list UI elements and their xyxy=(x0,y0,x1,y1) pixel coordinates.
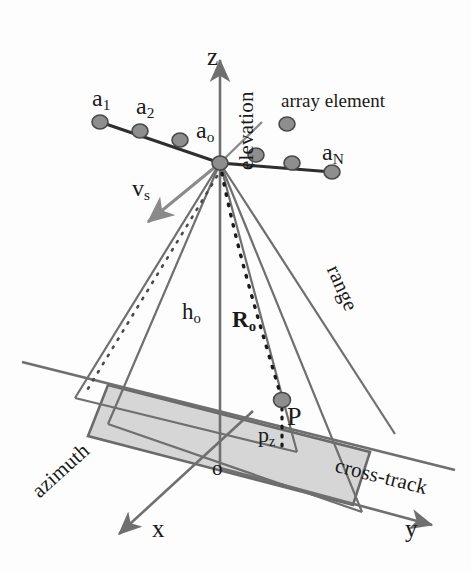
target-height-sub: z xyxy=(269,433,275,449)
altitude-label: ho xyxy=(182,300,201,326)
array-element-label-first: a1 xyxy=(92,86,110,113)
array-element-label-center: ao xyxy=(196,118,214,145)
array-element-label-second: a2 xyxy=(136,94,154,121)
legend-array-element-dot xyxy=(279,117,295,131)
array-first-sub: 1 xyxy=(103,96,111,113)
slant-range-letter: R xyxy=(232,307,249,332)
axis-z-letter: z xyxy=(207,44,218,69)
axis-x-letter: x xyxy=(152,516,165,541)
velocity-vector xyxy=(148,163,220,222)
array-last-sub: N xyxy=(333,150,344,167)
slant-range-label: Ro xyxy=(232,308,256,334)
array-center-letter: a xyxy=(196,117,207,143)
velocity-sub: s xyxy=(144,186,150,203)
target-height-letter: p xyxy=(258,422,269,447)
legend-array-element-label: array element xyxy=(281,91,385,110)
velocity-letter: v xyxy=(132,175,144,201)
target-point-label: P xyxy=(287,404,301,430)
array-center-sub: o xyxy=(207,128,215,145)
altitude-letter: h xyxy=(182,299,194,324)
velocity-label: vs xyxy=(132,176,150,203)
target-height-label: pz xyxy=(258,424,275,448)
array-last-letter: a xyxy=(322,139,333,165)
altitude-sub: o xyxy=(194,310,201,326)
axis-z-word-elevation: elevation xyxy=(236,91,257,170)
near-edge-dotted-line xyxy=(86,168,222,392)
array-first-letter: a xyxy=(92,85,103,111)
origin-label: o xyxy=(212,458,223,479)
slant-range-sub: o xyxy=(249,318,256,334)
array-second-sub: 2 xyxy=(147,104,155,121)
array-element-label-last: aN xyxy=(322,140,344,167)
sar-geometry-figure: z elevation x azimuth y cross-track o a1… xyxy=(0,0,471,573)
axis-y-letter: y xyxy=(405,516,418,541)
ground-swath xyxy=(88,385,370,505)
array-second-letter: a xyxy=(136,93,147,119)
